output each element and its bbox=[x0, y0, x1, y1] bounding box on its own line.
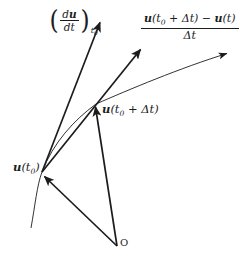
derivative-label: ( du dt ) t0 bbox=[49, 8, 98, 33]
derivative-vector bbox=[42, 23, 100, 173]
difference-quotient-label: u(t0 + Δt) − u(t) Δt bbox=[141, 12, 239, 42]
numerator-dt-minus: + Δt) − bbox=[166, 12, 215, 25]
close-paren: ) bbox=[80, 9, 89, 32]
trajectory-curve bbox=[31, 54, 227, 229]
quotient-numerator: u(t0 + Δt) − u(t) bbox=[141, 12, 239, 29]
derivative-subscript: t0 bbox=[91, 26, 98, 36]
open-paren: ( bbox=[50, 9, 59, 32]
derivative-numerator: du bbox=[60, 8, 78, 21]
u-t0-plus-dt-label: u(t0 + Δt) bbox=[102, 102, 159, 118]
u-t0-plus-dt-vector bbox=[96, 107, 118, 246]
origin-label: O bbox=[120, 237, 128, 248]
numerator-t2: (t) bbox=[223, 12, 236, 25]
vector-derivative-figure: ( du dt ) t0 u(t0 + Δt) − u(t) Δt u(t0 +… bbox=[0, 0, 240, 271]
label-dt: + Δt) bbox=[124, 102, 158, 116]
u-t0-vector bbox=[45, 177, 118, 247]
numerator-u: u bbox=[69, 8, 77, 20]
numerator-u2: u bbox=[215, 12, 223, 25]
numerator-u1: u bbox=[144, 12, 152, 25]
u-t0-label: u(t0) bbox=[13, 160, 40, 176]
label-close: ) bbox=[35, 160, 40, 174]
derivative-denominator: dt bbox=[64, 21, 75, 33]
subscript-zero: 0 bbox=[94, 28, 98, 35]
quotient-denominator: Δt bbox=[141, 29, 239, 42]
numerator-d: d bbox=[62, 8, 69, 20]
derivative-fraction: du dt bbox=[60, 8, 78, 33]
numerator-t1: (t bbox=[152, 12, 161, 25]
